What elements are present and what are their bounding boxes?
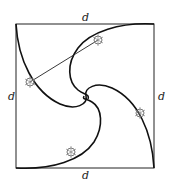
- label-top-side: d: [82, 12, 89, 23]
- label-right-side: d: [158, 91, 165, 102]
- bug-icon: [66, 146, 76, 158]
- pursuit-diagram: [0, 0, 172, 183]
- spiral-path-top-left: [16, 24, 86, 107]
- spiral-path-bottom-right: [86, 85, 154, 168]
- line-of-sight: [30, 40, 98, 82]
- spiral-path-bottom-left: [16, 96, 101, 168]
- square-frame: [16, 24, 154, 168]
- label-left-side: d: [8, 91, 15, 102]
- label-bottom-side: d: [82, 170, 89, 181]
- bug-icon: [93, 34, 103, 46]
- bug-icon: [25, 76, 35, 88]
